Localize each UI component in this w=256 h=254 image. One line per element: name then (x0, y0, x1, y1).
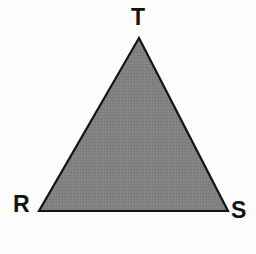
figure-canvas: T R S (0, 0, 256, 254)
vertex-label-s: S (231, 199, 246, 222)
vertex-label-r: R (13, 193, 30, 216)
triangle-shape (0, 0, 256, 254)
vertex-label-t: T (131, 6, 145, 29)
triangle-polygon (39, 38, 228, 211)
